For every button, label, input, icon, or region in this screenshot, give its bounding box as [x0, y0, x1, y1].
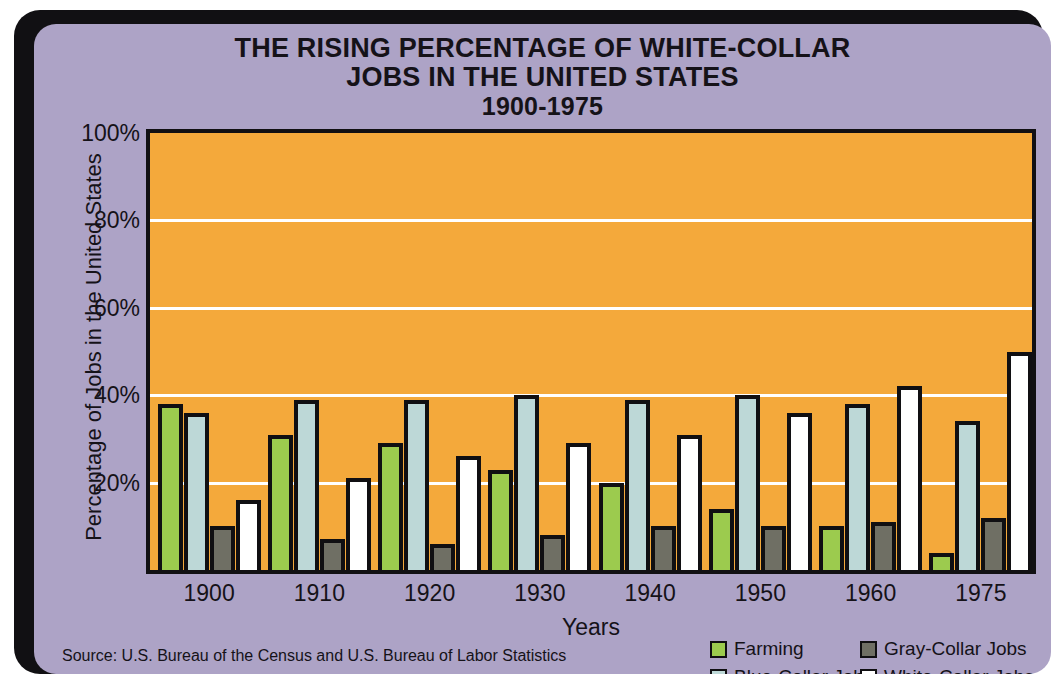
bar-group	[709, 133, 812, 570]
legend-label: Blue-Collar Jobs	[734, 666, 873, 674]
bar-whitecollar-1960	[897, 386, 922, 570]
bar-whitecollar-1900	[236, 500, 261, 570]
chart-title-line-2: JOBS IN THE UNITED STATES	[34, 63, 1051, 92]
bar-graycollar-1940	[651, 526, 676, 570]
bar-farming-1900	[158, 404, 183, 570]
legend-item-bluecollar[interactable]: Blue-Collar Jobs	[710, 664, 860, 674]
x-axis-tick-labels: 19001910192019301940195019601975	[146, 580, 1036, 614]
poster-frame-border: THE RISING PERCENTAGE OF WHITE-COLLAR JO…	[14, 10, 1043, 674]
chart-legend: FarmingGray-Collar JobsBlue-Collar JobsW…	[710, 636, 1040, 674]
bar-graycollar-1930	[540, 535, 565, 570]
x-tick-label: 1920	[375, 580, 485, 607]
x-tick-label: 1900	[154, 580, 264, 607]
legend-label: Gray-Collar Jobs	[884, 638, 1027, 660]
bar-farming-1950	[709, 509, 734, 570]
bar-whitecollar-1975	[1007, 352, 1032, 571]
x-tick-label: 1940	[595, 580, 705, 607]
bar-farming-1920	[378, 443, 403, 570]
bar-whitecollar-1940	[677, 435, 702, 570]
legend-swatch-icon-graycollar	[860, 641, 877, 658]
bar-group	[378, 133, 481, 570]
bar-bluecollar-1900	[184, 413, 209, 570]
bar-farming-1930	[488, 470, 513, 571]
x-tick-label: 1930	[485, 580, 595, 607]
y-tick-label: 80%	[54, 207, 140, 234]
bar-bluecollar-1920	[404, 400, 429, 570]
bar-graycollar-1920	[430, 544, 455, 570]
legend-label: White-Collar Jobs	[884, 666, 1034, 674]
y-tick-label: 60%	[54, 294, 140, 321]
plot-area	[146, 129, 1036, 574]
legend-swatch-icon-whitecollar	[860, 669, 877, 675]
bar-farming-1910	[268, 435, 293, 570]
bar-group	[158, 133, 261, 570]
source-note: Source: U.S. Bureau of the Census and U.…	[62, 647, 566, 665]
bar-farming-1960	[819, 526, 844, 570]
bar-group	[819, 133, 922, 570]
bar-group	[488, 133, 591, 570]
bar-whitecollar-1930	[566, 443, 591, 570]
chart-title-block: THE RISING PERCENTAGE OF WHITE-COLLAR JO…	[34, 34, 1051, 120]
bar-bluecollar-1960	[845, 404, 870, 570]
x-tick-label: 1950	[705, 580, 815, 607]
bar-bluecollar-1975	[955, 421, 980, 570]
bar-whitecollar-1950	[787, 413, 812, 570]
x-tick-label: 1960	[816, 580, 926, 607]
legend-swatch-icon-bluecollar	[710, 669, 727, 675]
bar-bluecollar-1910	[294, 400, 319, 570]
bar-group	[929, 133, 1032, 570]
poster-canvas: THE RISING PERCENTAGE OF WHITE-COLLAR JO…	[34, 24, 1051, 674]
bar-whitecollar-1910	[346, 478, 371, 570]
bar-graycollar-1950	[761, 526, 786, 570]
chart-poster: THE RISING PERCENTAGE OF WHITE-COLLAR JO…	[0, 0, 1051, 697]
bar-bluecollar-1930	[514, 395, 539, 570]
chart-title-line-3: 1900-1975	[34, 93, 1051, 120]
bar-group	[599, 133, 702, 570]
bars-layer	[150, 133, 1032, 570]
bar-farming-1940	[599, 483, 624, 570]
y-tick-label: 40%	[54, 382, 140, 409]
legend-item-graycollar[interactable]: Gray-Collar Jobs	[860, 636, 1040, 662]
y-tick-label: 100%	[54, 120, 140, 147]
legend-item-whitecollar[interactable]: White-Collar Jobs	[860, 664, 1040, 674]
bar-group	[268, 133, 371, 570]
y-tick-label: 20%	[54, 469, 140, 496]
bar-bluecollar-1950	[735, 395, 760, 570]
x-tick-label: 1910	[264, 580, 374, 607]
y-axis-tick-labels: 20%40%60%80%100%	[48, 129, 140, 574]
bar-graycollar-1900	[210, 526, 235, 570]
bar-graycollar-1960	[871, 522, 896, 570]
bar-bluecollar-1940	[625, 400, 650, 570]
bar-whitecollar-1920	[456, 456, 481, 570]
bar-graycollar-1975	[981, 518, 1006, 570]
bar-graycollar-1910	[320, 539, 345, 570]
chart-title-line-1: THE RISING PERCENTAGE OF WHITE-COLLAR	[34, 34, 1051, 63]
x-tick-label: 1975	[926, 580, 1036, 607]
bar-farming-1975	[929, 553, 954, 570]
legend-item-farming[interactable]: Farming	[710, 636, 860, 662]
legend-label: Farming	[734, 638, 804, 660]
legend-swatch-icon-farming	[710, 641, 727, 658]
